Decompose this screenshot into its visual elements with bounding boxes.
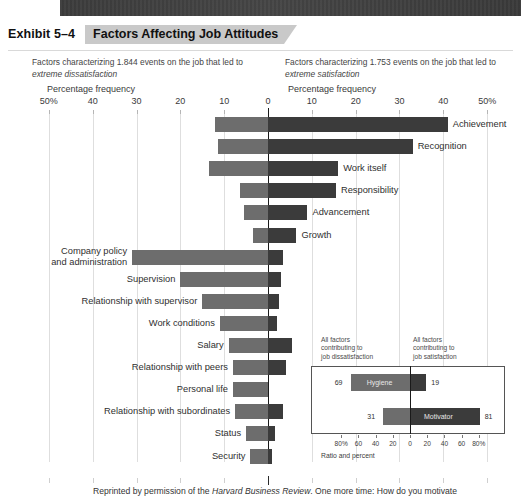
bar-category-label: Advancement <box>312 207 369 218</box>
footer-tick <box>93 478 94 483</box>
inset-caption-line: job dissatisfaction <box>321 353 403 361</box>
bar-dissatisfaction <box>220 316 268 331</box>
bar-category-label-line: Relationship with subordinates <box>104 406 230 417</box>
footer-tick <box>487 478 488 483</box>
footer-tick <box>312 478 313 483</box>
bar-category-label-line: Status <box>215 428 241 439</box>
bar-category-label-line: Achievement <box>453 119 507 130</box>
bar-dissatisfaction <box>253 228 268 243</box>
bar-category-label: Work itself <box>343 163 386 174</box>
bar-satisfaction <box>268 272 281 287</box>
bar-category-label-line: Company policy <box>51 246 127 257</box>
exhibit-number: Exhibit 5–4 <box>8 27 75 41</box>
x-tick-label: 50% <box>40 96 58 106</box>
footer-tick <box>356 478 357 483</box>
inset-tick-mark <box>479 435 480 438</box>
bar-category-label: Growth <box>301 230 331 241</box>
bar-dissatisfaction <box>240 183 268 198</box>
bar-satisfaction <box>268 250 283 265</box>
bar-category-label: Relationship with supervisor <box>82 296 198 307</box>
bar-category-label-line: Work conditions <box>149 318 215 329</box>
inset-bar-right <box>410 374 426 391</box>
bar-category-label: Achievement <box>453 119 507 130</box>
footer-tick <box>443 478 444 483</box>
exhibit-page: Exhibit 5–4 Factors Affecting Job Attitu… <box>0 0 521 503</box>
bar-category-label-line: Responsibility <box>341 185 398 196</box>
inset-value-right: 19 <box>431 378 439 388</box>
x-tick-label: 40 <box>88 96 98 106</box>
inset-tick-mark <box>444 435 445 438</box>
band-texture <box>60 0 521 16</box>
inset-bar-left <box>383 408 410 425</box>
footer-tick <box>399 478 400 483</box>
inset-tick-label: 40 <box>441 440 448 447</box>
bar-category-label-line: Recognition <box>418 141 467 152</box>
inset-tick-label: 60 <box>458 440 465 447</box>
bar-category-label-line: Security <box>212 451 246 462</box>
footer-tick <box>224 478 225 483</box>
x-tick-label: 40 <box>438 96 448 106</box>
bar-satisfaction <box>268 183 336 198</box>
bar-category-label: Work conditions <box>149 318 215 329</box>
bar-category-label-line: Relationship with peers <box>132 362 228 373</box>
bar-satisfaction <box>268 404 283 419</box>
caption-satisfaction-line1: Factors characterizing 1.753 events on t… <box>285 57 496 67</box>
bar-satisfaction <box>268 426 275 441</box>
bar-category-label-line: Relationship with supervisor <box>82 296 198 307</box>
bar-category-label-line: Supervision <box>127 274 176 285</box>
bar-category-label: Personal life <box>177 384 228 395</box>
x-tick-label: 20 <box>175 96 185 106</box>
caption-dissatisfaction-line1: Factors characterizing 1.844 events on t… <box>32 57 243 67</box>
x-tick-label: 10 <box>219 96 229 106</box>
bar-satisfaction <box>268 316 277 331</box>
inset-caption-line: All factors <box>321 336 403 344</box>
inset-tick-label: 20 <box>424 440 431 447</box>
inset-tick-mark <box>341 435 342 438</box>
inset-tick-mark <box>376 435 377 438</box>
inset-caption-dissatisfaction: All factorscontributing tojob dissatisfa… <box>321 336 403 361</box>
inset-tick-label: 0 <box>408 440 412 447</box>
bar-category-label: Relationship with subordinates <box>104 406 230 417</box>
axis-title-right: Percentage frequency <box>288 84 376 94</box>
footer-tick <box>137 478 138 483</box>
bar-category-label: Recognition <box>418 141 467 152</box>
inset-value-right: 81 <box>485 412 493 422</box>
caption-dissatisfaction-emphasis: extreme dissatisfaction <box>32 69 117 79</box>
gridline <box>49 114 50 462</box>
inset-bar-label: Motivator <box>424 408 453 425</box>
inset-tick-label: 80% <box>335 440 348 447</box>
inset-tick-mark <box>410 435 411 438</box>
bar-category-label-line: Personal life <box>177 384 228 395</box>
page-title: Factors Affecting Job Attitudes <box>93 27 278 41</box>
bar-satisfaction <box>268 117 448 132</box>
bar-category-label: Salary <box>197 340 223 351</box>
bar-dissatisfaction <box>202 294 268 309</box>
exhibit-title-row: Exhibit 5–4 Factors Affecting Job Attitu… <box>8 24 284 44</box>
exhibit-title-banner: Factors Affecting Job Attitudes <box>85 25 284 44</box>
bar-category-label-line: Growth <box>301 230 331 241</box>
bar-dissatisfaction <box>244 205 268 220</box>
inset-tick-label: 60 <box>355 440 362 447</box>
bar-dissatisfaction <box>180 272 268 287</box>
inset-tick-mark <box>462 435 463 438</box>
inset-caption-line: job satisfaction <box>413 353 495 361</box>
footer-tick <box>49 478 50 483</box>
bar-dissatisfaction <box>215 117 268 132</box>
bar-dissatisfaction <box>229 338 268 353</box>
footnote-part2: . One more time: How do you motivate <box>310 486 457 496</box>
inset-tick-mark <box>393 435 394 438</box>
bar-category-label-line: Work itself <box>343 163 386 174</box>
inset-summary-chart: All factorscontributing tojob dissatisfa… <box>311 336 507 462</box>
bar-satisfaction <box>268 294 279 309</box>
bar-category-label-line: and administration <box>51 257 127 268</box>
inset-caption-line: contributing to <box>321 344 403 352</box>
axis-title-left: Percentage frequency <box>47 84 135 94</box>
bar-category-label-line: Salary <box>197 340 223 351</box>
bar-satisfaction <box>268 338 292 353</box>
bar-dissatisfaction <box>218 139 268 154</box>
caption-satisfaction: Factors characterizing 1.753 events on t… <box>285 57 510 80</box>
inset-axis-caption: Ratio and percent <box>321 452 375 459</box>
inset-value-left: 69 <box>335 378 343 388</box>
bar-satisfaction <box>268 139 413 154</box>
footer-zero-tick <box>268 476 269 485</box>
